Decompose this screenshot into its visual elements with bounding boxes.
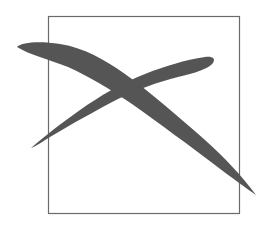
- cross-stroke-a-icon: [17, 42, 256, 195]
- crossed-out-box-figure: [0, 0, 270, 226]
